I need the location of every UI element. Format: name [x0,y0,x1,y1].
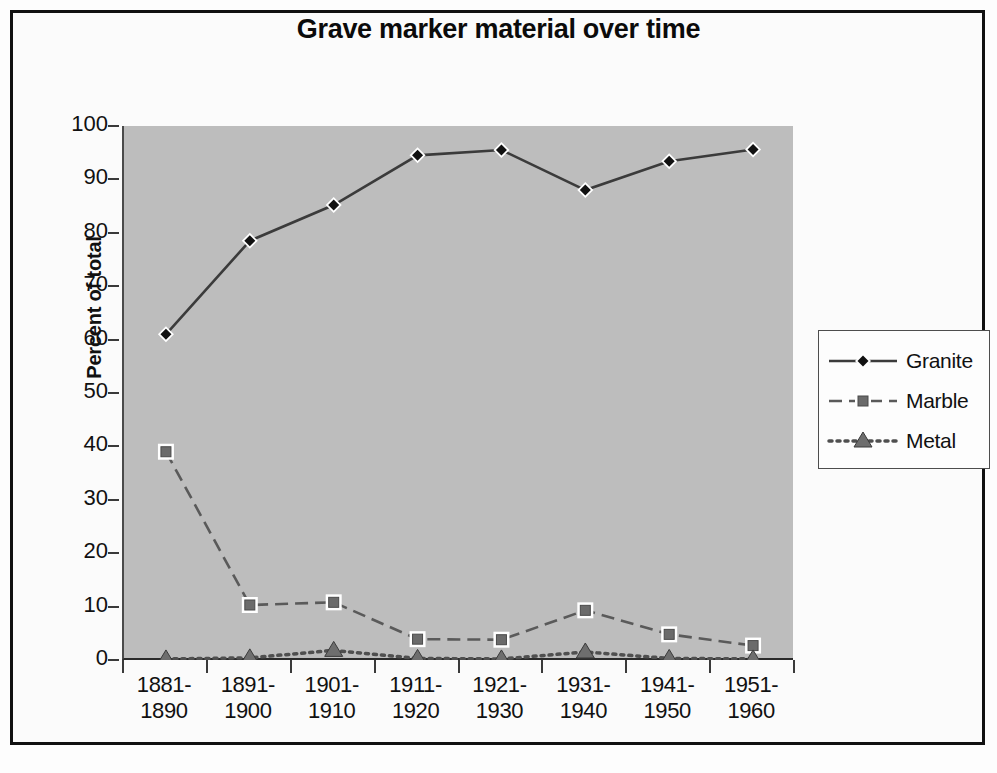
page-artifact [14,754,314,768]
x-tick-label-line: 1931- [541,672,625,698]
legend-swatch-diamond-icon [827,351,899,371]
x-tick-label-line: 1910 [290,698,374,724]
chart-page: Grave marker material over time Percent … [0,0,997,773]
x-tick-label: 1951-1960 [709,672,793,723]
x-tick-label-line: 1920 [374,698,458,724]
legend-item-granite[interactable]: Granite [819,341,989,381]
x-tick-label-line: 1900 [206,698,290,724]
diamond-marker [855,353,871,369]
x-tick-label-line: 1950 [625,698,709,724]
x-tick-mark [793,660,795,673]
x-tick-label: 1911-1920 [374,672,458,723]
x-axis-tick-labels: 1881-18901891-19001901-19101911-19201921… [122,672,793,723]
x-tick-label-line: 1921- [458,672,542,698]
x-tick-label-line: 1951- [709,672,793,698]
x-tick-label-line: 1960 [709,698,793,724]
legend-label: Marble [906,389,968,413]
legend-label: Metal [906,429,956,453]
x-tick-label-line: 1890 [122,698,206,724]
x-tick-label-line: 1911- [374,672,458,698]
x-tick-label: 1931-1940 [541,672,625,723]
x-tick-label: 1891-1900 [206,672,290,723]
x-tick-label-line: 1881- [122,672,206,698]
chart-legend: GraniteMarbleMetal [818,330,990,469]
x-tick-label-line: 1930 [458,698,542,724]
legend-swatch-square-icon [827,391,899,411]
x-tick-label: 1941-1950 [625,672,709,723]
x-tick-label: 1901-1910 [290,672,374,723]
x-tick-label-line: 1941- [625,672,709,698]
legend-label: Granite [906,349,973,373]
legend-item-metal[interactable]: Metal [819,421,989,461]
x-tick-label: 1921-1930 [458,672,542,723]
square-marker [855,393,871,409]
x-tick-label: 1881-1890 [122,672,206,723]
legend-swatch-triangle-icon [827,431,899,451]
x-tick-label-line: 1901- [290,672,374,698]
x-tick-label-line: 1891- [206,672,290,698]
x-tick-label-line: 1940 [541,698,625,724]
legend-item-marble[interactable]: Marble [819,381,989,421]
